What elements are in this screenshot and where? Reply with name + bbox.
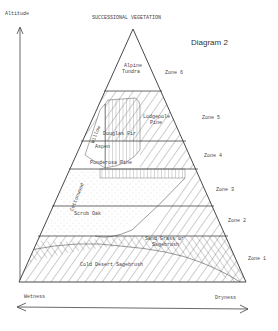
ponderosa-label: Ponderosa Pine bbox=[90, 160, 132, 166]
aspen-label: Aspen bbox=[95, 144, 110, 150]
diagram-title: SUCCESSIONAL VEGETATION bbox=[92, 15, 161, 21]
zone-2-label: Zone 2 bbox=[228, 218, 246, 224]
douglas-fir-label: Douglas Fir bbox=[103, 131, 136, 137]
diagram-canvas bbox=[0, 0, 278, 331]
cold-desert-label: Cold Desert Sagebrush bbox=[80, 262, 143, 268]
altitude-label: Altitude bbox=[5, 11, 29, 17]
zone-5-label: Zone 5 bbox=[202, 115, 220, 121]
alpine-label-2: Tundra bbox=[122, 69, 140, 75]
wetness-label: Wetness bbox=[24, 294, 45, 300]
zone-1-label: Zone 1 bbox=[248, 256, 266, 262]
zone-6-label: Zone 6 bbox=[165, 70, 183, 76]
sand-grass-label-2: Sagebrush bbox=[152, 242, 179, 248]
zone-3-label: Zone 3 bbox=[216, 187, 234, 193]
moisture-axis bbox=[17, 303, 248, 313]
lodgepole-label-2: Pine bbox=[150, 120, 162, 126]
diagram-number: Diagram 2 bbox=[191, 38, 228, 47]
dryness-label: Dryness bbox=[215, 295, 236, 301]
altitude-axis bbox=[17, 27, 23, 280]
zone-4-label: Zone 4 bbox=[204, 153, 222, 159]
scrub-oak-label: Scrub Oak bbox=[74, 211, 101, 217]
